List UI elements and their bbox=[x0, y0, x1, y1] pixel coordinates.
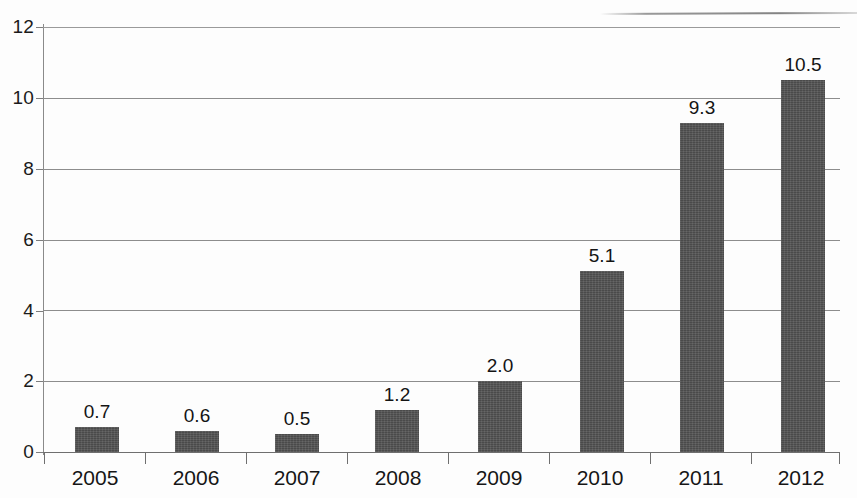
bar-2007 bbox=[275, 434, 319, 452]
y-tick-label-12: 12 bbox=[0, 16, 34, 38]
bar-value-label-2005: 0.7 bbox=[84, 401, 110, 423]
gridline-12 bbox=[43, 27, 840, 28]
bar-2008 bbox=[375, 410, 419, 453]
x-tick-mark-6 bbox=[650, 452, 651, 464]
x-tick-mark-1 bbox=[145, 452, 146, 464]
bar-2005 bbox=[75, 427, 119, 452]
y-tick-label-2: 2 bbox=[0, 370, 34, 392]
bar-2012 bbox=[781, 80, 825, 452]
x-tick-mark-8 bbox=[839, 452, 840, 464]
x-category-label-2010: 2010 bbox=[577, 466, 624, 490]
x-tick-mark-7 bbox=[751, 452, 752, 464]
plot-area bbox=[43, 27, 840, 452]
bar-2009 bbox=[478, 381, 522, 452]
y-tick-label-10: 10 bbox=[0, 87, 34, 109]
gridline-10 bbox=[43, 98, 840, 99]
y-tick-label-6: 6 bbox=[0, 229, 34, 251]
x-category-label-2011: 2011 bbox=[678, 466, 723, 490]
x-category-label-2009: 2009 bbox=[476, 466, 523, 490]
bar-2010 bbox=[580, 271, 624, 452]
x-category-label-2007: 2007 bbox=[274, 466, 321, 490]
y-tick-label-8: 8 bbox=[0, 158, 34, 180]
x-tick-mark-2 bbox=[246, 452, 247, 464]
x-category-label-2008: 2008 bbox=[375, 466, 422, 490]
x-category-label-2005: 2005 bbox=[72, 466, 119, 490]
scan-artifact-line bbox=[600, 12, 857, 15]
x-category-label-2012: 2012 bbox=[778, 466, 825, 490]
bar-value-label-2008: 1.2 bbox=[384, 384, 410, 406]
bar-value-label-2010: 5.1 bbox=[589, 245, 615, 267]
x-tick-mark-5 bbox=[549, 452, 550, 464]
bar-2011 bbox=[680, 123, 724, 452]
bar-value-label-2011: 9.3 bbox=[689, 97, 715, 119]
bar-value-label-2012: 10.5 bbox=[785, 54, 822, 76]
bar-value-label-2006: 0.6 bbox=[184, 405, 210, 427]
bar-value-label-2007: 0.5 bbox=[284, 408, 310, 430]
y-axis-tick-labels: 12 10 8 6 4 2 0 bbox=[0, 0, 34, 498]
x-tick-mark-3 bbox=[347, 452, 348, 464]
x-tick-mark-0 bbox=[44, 452, 45, 464]
y-tick-label-0: 0 bbox=[0, 441, 34, 463]
x-tick-mark-4 bbox=[448, 452, 449, 464]
bar-value-label-2009: 2.0 bbox=[487, 355, 513, 377]
y-tick-label-4: 4 bbox=[0, 300, 34, 322]
x-axis-line bbox=[43, 452, 840, 453]
bar-2006 bbox=[175, 431, 219, 452]
bar-chart: 12 10 8 6 4 2 0 0.7 0.6 0.5 1.2 2.0 5.1 bbox=[0, 0, 857, 498]
x-category-label-2006: 2006 bbox=[173, 466, 220, 490]
